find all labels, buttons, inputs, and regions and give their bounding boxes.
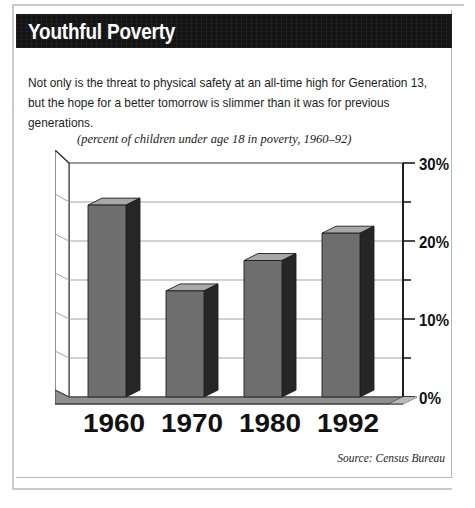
page-frame-left-rule (12, 4, 14, 490)
poverty-bar-chart: 30% 20% 10% 0% 1960 1970 1980 1992 (55, 150, 455, 450)
bar-1960[interactable] (88, 198, 140, 397)
bar-1970-side (204, 284, 218, 397)
x-axis-labels: 1960 1970 1980 1992 (83, 408, 379, 438)
bar-1970[interactable] (166, 284, 218, 397)
x-tick-label-1992: 1992 (317, 408, 379, 438)
source-note: Source: Census Bureau (337, 452, 445, 464)
chart-svg: 30% 20% 10% 0% 1960 1970 1980 1992 (55, 150, 455, 450)
y-tick-label-20: 20% (419, 233, 449, 252)
bar-1992-side (360, 226, 374, 397)
bar-1992-front (322, 233, 360, 397)
x-tick-label-1970: 1970 (161, 408, 223, 438)
page-title: Youthful Poverty (28, 19, 175, 45)
y-tick-label-10: 10% (419, 311, 449, 330)
intro-paragraph: Not only is the threat to physical safet… (28, 73, 432, 133)
bar-1980-front (244, 261, 282, 398)
page-frame-bottom-rule (12, 488, 452, 490)
chart-left-wall (55, 150, 69, 397)
x-tick-label-1980: 1980 (239, 408, 301, 438)
bar-1960-side (126, 198, 140, 397)
y-axis-labels: 30% 20% 10% 0% (419, 155, 449, 408)
bar-1980[interactable] (244, 254, 296, 398)
title-band: Youthful Poverty (16, 14, 452, 48)
y-tick-label-30: 30% (419, 155, 449, 174)
page-frame-top-rule (12, 4, 464, 6)
y-axis-ticks (403, 163, 415, 397)
bar-1970-front (166, 291, 204, 397)
bar-1960-front (88, 205, 126, 397)
bar-1980-side (282, 254, 296, 398)
chart-caption: (percent of children under age 18 in pov… (77, 132, 351, 147)
y-tick-label-0: 0% (419, 389, 441, 408)
x-tick-label-1960: 1960 (83, 408, 145, 438)
bar-1992[interactable] (322, 226, 374, 397)
page-root: Youthful Poverty Not only is the threat … (0, 0, 475, 508)
